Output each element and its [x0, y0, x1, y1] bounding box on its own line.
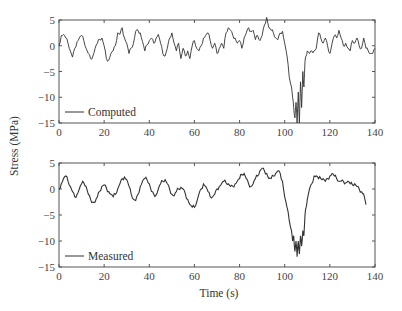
x-tick-label: 0	[56, 126, 62, 138]
x-axis-label: Time (s)	[200, 287, 239, 300]
measured-x-ticks: 020406080100120140	[56, 163, 384, 282]
x-tick-label: 20	[99, 126, 111, 138]
x-tick-label: 120	[322, 126, 339, 138]
computed-x-ticks: 020406080100120140	[56, 20, 384, 138]
x-tick-label: 0	[56, 270, 62, 282]
computed-legend-label: Computed	[88, 106, 136, 119]
x-tick-label: 60	[189, 270, 201, 282]
measured-panel: 50−5−10−15 020406080100120140 Measured	[38, 157, 384, 282]
y-tick-label: 5	[50, 14, 56, 26]
y-tick-label: 0	[50, 40, 56, 52]
stress-figure: Stress (MPa) 50−5−10−15 0204060801001201…	[0, 0, 402, 311]
x-tick-label: 40	[144, 270, 156, 282]
x-tick-label: 100	[276, 126, 293, 138]
y-tick-label: −5	[43, 66, 55, 78]
x-tick-label: 140	[367, 270, 384, 282]
y-tick-label: −15	[38, 261, 56, 273]
measured-series-line	[59, 168, 366, 256]
x-tick-label: 80	[234, 270, 246, 282]
y-axis-label: Stress (MPa)	[8, 116, 21, 176]
x-tick-label: 100	[276, 270, 293, 282]
y-tick-label: 5	[50, 157, 56, 169]
x-tick-label: 80	[234, 126, 246, 138]
y-tick-label: −15	[38, 117, 56, 129]
x-tick-label: 20	[99, 270, 111, 282]
y-tick-label: −10	[38, 235, 56, 247]
x-tick-label: 120	[322, 270, 339, 282]
x-tick-label: 140	[367, 126, 384, 138]
computed-panel: 50−5−10−15 020406080100120140 Computed	[38, 14, 384, 138]
computed-legend: Computed	[65, 106, 136, 119]
measured-legend-label: Measured	[88, 250, 134, 262]
x-tick-label: 60	[189, 126, 201, 138]
y-tick-label: −5	[43, 209, 55, 221]
y-tick-label: 0	[50, 183, 56, 195]
measured-legend: Measured	[65, 250, 134, 262]
x-tick-label: 40	[144, 126, 156, 138]
y-tick-label: −10	[38, 91, 56, 103]
